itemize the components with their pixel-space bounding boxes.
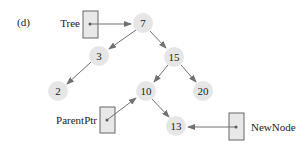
tree-node-3: 3 — [89, 46, 109, 66]
tree-node-2: 2 — [48, 81, 68, 101]
node-label: 20 — [198, 85, 210, 97]
tree-node-10: 10 — [136, 81, 156, 101]
node-label: 15 — [169, 51, 181, 63]
edge-7-3 — [109, 30, 136, 49]
tree-node-7: 7 — [133, 13, 153, 33]
pointer-label-tree: Tree — [60, 17, 80, 29]
tree-node-20: 20 — [193, 81, 213, 101]
tree-node-15: 15 — [164, 47, 184, 67]
edge-3-2 — [67, 62, 91, 84]
node-label: 13 — [171, 120, 183, 132]
node-label: 10 — [141, 85, 153, 97]
pointer-newnode: NewNode — [188, 113, 296, 140]
edge-15-10 — [154, 65, 168, 82]
binary-search-tree-diagram: (d) 7 3 15 2 10 20 13 Tree — [0, 0, 307, 147]
panel-label: (d) — [17, 16, 30, 29]
pointer-label-newnode: NewNode — [251, 121, 296, 133]
pointer-parentptr: ParentPtr — [56, 98, 136, 133]
pointer-tree: Tree — [60, 11, 131, 38]
tree-edges — [67, 30, 196, 117]
node-label: 7 — [140, 17, 146, 29]
tree-node-13: 13 — [166, 116, 186, 136]
node-label: 2 — [55, 85, 61, 97]
edge-7-15 — [150, 31, 166, 48]
edge-15-20 — [181, 65, 196, 82]
node-label: 3 — [96, 50, 102, 62]
edge-10-13 — [152, 99, 169, 117]
pointer-label-parentptr: ParentPtr — [56, 114, 97, 126]
